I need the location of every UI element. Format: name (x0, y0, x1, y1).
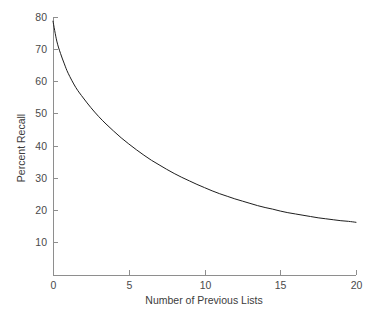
y-tick-label: 60 (35, 75, 47, 87)
y-tick-label: 20 (35, 204, 47, 216)
y-tick-label: 50 (35, 107, 47, 119)
chart-background (0, 0, 379, 320)
x-tick-label: 0 (51, 279, 57, 291)
chart-figure: 1020304050607080 05101520 Number of Prev… (0, 0, 379, 320)
y-axis-title: Percent Recall (15, 114, 27, 182)
y-tick-label: 30 (35, 172, 47, 184)
y-tick-label: 70 (35, 43, 47, 55)
x-axis-title: Number of Previous Lists (145, 294, 262, 306)
x-tick-label: 15 (275, 279, 287, 291)
x-tick-label: 20 (351, 279, 363, 291)
x-tick-label: 5 (127, 279, 133, 291)
y-tick-label: 80 (35, 11, 47, 23)
y-tick-label: 40 (35, 140, 47, 152)
x-tick-label: 10 (200, 279, 212, 291)
y-tick-label: 10 (35, 236, 47, 248)
recall-decay-line-chart: 1020304050607080 05101520 Number of Prev… (0, 0, 379, 320)
